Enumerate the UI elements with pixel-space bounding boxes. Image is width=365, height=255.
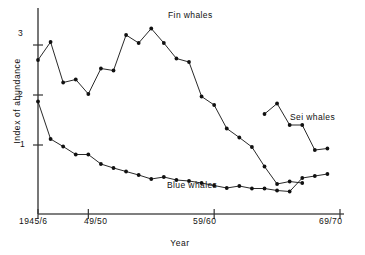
data-point — [275, 102, 279, 106]
data-point — [225, 127, 229, 131]
chart-canvas — [0, 0, 365, 255]
series-label-fin-whales: Fin whales — [168, 10, 213, 20]
data-point — [124, 33, 128, 37]
data-point — [49, 40, 53, 44]
data-point — [250, 187, 254, 191]
data-point — [162, 175, 166, 179]
data-point — [275, 182, 279, 186]
data-point — [175, 57, 179, 61]
data-point — [288, 123, 292, 127]
data-point — [99, 162, 103, 166]
data-point — [250, 145, 254, 149]
data-point — [263, 187, 267, 191]
data-point — [99, 67, 103, 71]
data-point — [74, 153, 78, 157]
x-tick-label-6970: 69/70 — [319, 216, 342, 226]
data-point — [300, 181, 304, 185]
x-tick-label-4950: 49/50 — [84, 216, 107, 226]
data-point — [61, 81, 65, 85]
data-point — [36, 58, 40, 62]
y-tick-label-3: 3 — [18, 28, 23, 38]
series-label-blue-whales: Blue whales — [167, 180, 217, 190]
data-point — [149, 177, 153, 181]
data-point — [237, 184, 241, 188]
data-point — [225, 186, 229, 190]
data-point — [263, 112, 267, 116]
data-point — [300, 123, 304, 127]
data-point — [112, 166, 116, 170]
x-tick-label-5960: 59/60 — [193, 216, 216, 226]
data-point — [237, 136, 241, 140]
data-point — [137, 173, 141, 177]
data-point — [86, 153, 90, 157]
data-point — [288, 190, 292, 194]
y-tick-label-2: 2 — [18, 89, 23, 99]
data-point — [313, 174, 317, 178]
data-point — [36, 100, 40, 104]
series-label-sei-whales: Sei whales — [290, 112, 335, 122]
y-tick-label-1: 1 — [20, 139, 25, 149]
y-axis-title: Index of abundance — [12, 58, 22, 144]
data-point — [326, 172, 330, 176]
data-point — [149, 27, 153, 31]
data-point — [74, 78, 78, 82]
series-sei-whales — [263, 102, 330, 152]
data-point — [137, 41, 141, 45]
data-point — [326, 147, 330, 151]
data-point — [49, 137, 53, 141]
data-point — [124, 170, 128, 174]
data-point — [112, 69, 116, 73]
data-point — [212, 103, 216, 107]
whale-abundance-chart: Index of abundance Year 3 2 1 1945/6 49/… — [0, 0, 365, 255]
data-point — [288, 180, 292, 184]
data-point — [187, 60, 191, 64]
series-line — [265, 104, 328, 151]
data-point — [200, 95, 204, 99]
data-point — [275, 189, 279, 193]
data-point — [263, 165, 267, 169]
x-tick-label-1945: 1945/6 — [19, 216, 47, 226]
data-series-layer — [36, 27, 329, 194]
x-axis-title: Year — [150, 238, 210, 248]
series-fin-whales — [36, 27, 304, 186]
data-point — [313, 148, 317, 152]
series-line — [38, 29, 302, 185]
data-point — [61, 145, 65, 149]
data-point — [86, 92, 90, 96]
data-point — [300, 176, 304, 180]
data-point — [162, 41, 166, 45]
